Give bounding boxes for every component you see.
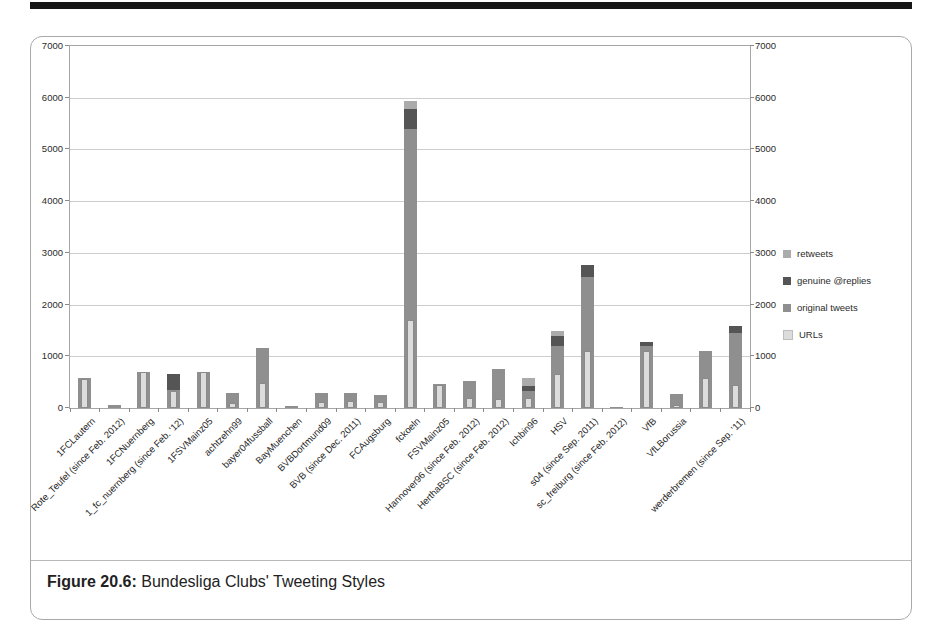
- y-axis-tick-label: 4000: [755, 195, 776, 206]
- y-axis-tick: [65, 148, 69, 149]
- category-label: Ichbin96: [508, 416, 540, 448]
- y-axis-tick-label: 0: [755, 402, 760, 413]
- y-axis-tick: [750, 304, 754, 305]
- legend-item-original-tweets: original tweets: [783, 303, 908, 313]
- y-axis-tick: [65, 355, 69, 356]
- bar-segment-genuine-replies: [522, 386, 535, 391]
- y-axis-tick: [750, 45, 754, 46]
- y-axis-tick: [750, 97, 754, 98]
- bar-overlay-urls: [377, 402, 384, 408]
- bar-overlay-urls: [229, 403, 236, 408]
- urls-swatch-icon: [783, 330, 793, 340]
- figure-box: 1FCLauternRote_Teufel (since Feb. 2012)1…: [30, 36, 912, 620]
- bar-overlay-urls: [140, 372, 147, 408]
- bar-overlay-urls: [259, 383, 266, 408]
- bar-segment-genuine-replies: [729, 326, 742, 332]
- bar-segment-original-tweets: [108, 405, 121, 408]
- chart-legend: retweets genuine @replies original tweet…: [783, 249, 908, 357]
- y-axis-tick-label: 6000: [755, 92, 776, 103]
- bar-segment-genuine-replies: [167, 374, 180, 390]
- bar-overlay-urls: [200, 372, 207, 408]
- figure-caption: Figure 20.6: Bundesliga Clubs' Tweeting …: [47, 573, 385, 591]
- chart-plot-area: [69, 45, 751, 409]
- legend-item-urls: URLs: [783, 330, 908, 340]
- bar-overlay-urls: [673, 405, 680, 408]
- y-axis-tick-label: 7000: [33, 40, 63, 51]
- bar-overlay-urls: [466, 398, 473, 408]
- y-axis-tick: [750, 407, 754, 408]
- legend-label: URLs: [799, 330, 823, 340]
- legend-item-retweets: retweets: [783, 249, 908, 259]
- bar-segment-genuine-replies: [581, 265, 594, 277]
- y-axis-tick-label: 1000: [33, 350, 63, 361]
- category-label: HSV: [549, 416, 570, 437]
- y-axis-tick-label: 3000: [755, 247, 776, 258]
- genuine-replies-swatch-icon: [783, 277, 791, 285]
- bar-segment-retweets: [551, 331, 564, 336]
- bar-overlay-urls: [170, 391, 177, 408]
- bar-overlay-urls: [318, 402, 325, 408]
- y-axis-tick: [65, 304, 69, 305]
- y-axis-tick-label: 2000: [33, 299, 63, 310]
- y-axis-tick: [750, 252, 754, 253]
- legend-item-genuine-replies: genuine @replies: [783, 276, 908, 286]
- retweets-swatch-icon: [783, 250, 791, 258]
- y-axis-tick-label: 4000: [33, 195, 63, 206]
- bar-overlay-urls: [525, 398, 532, 408]
- y-axis-tick: [65, 252, 69, 253]
- figure-caption-title: Bundesliga Clubs' Tweeting Styles: [137, 573, 385, 590]
- page-header-rule: [30, 2, 912, 9]
- bar-overlay-urls: [495, 399, 502, 408]
- bar-overlay-urls: [436, 385, 443, 408]
- bar-overlay-urls: [554, 374, 561, 408]
- y-axis-tick-label: 6000: [33, 92, 63, 103]
- y-axis-tick: [750, 200, 754, 201]
- caption-divider: Figure 20.6: Bundesliga Clubs' Tweeting …: [31, 560, 911, 561]
- bar-segment-genuine-replies: [551, 336, 564, 346]
- bar-overlay-urls: [81, 379, 88, 408]
- bar-segment-original-tweets: [610, 407, 623, 408]
- legend-label: retweets: [797, 249, 833, 259]
- y-axis-tick-label: 7000: [755, 40, 776, 51]
- bar-overlay-urls: [407, 320, 414, 408]
- category-label: VfB: [641, 416, 659, 434]
- bar-segment-original-tweets: [285, 406, 298, 408]
- bar-segment-genuine-replies: [404, 109, 417, 129]
- legend-label: genuine @replies: [797, 276, 871, 286]
- figure-caption-number: Figure 20.6:: [47, 573, 137, 590]
- bar-overlay-urls: [732, 385, 739, 408]
- bar-overlay-urls: [702, 378, 709, 409]
- legend-label: original tweets: [797, 303, 858, 313]
- y-axis-tick-label: 3000: [33, 247, 63, 258]
- y-axis-tick: [65, 200, 69, 201]
- y-axis-tick-label: 5000: [755, 143, 776, 154]
- bar-overlay-urls: [347, 401, 354, 408]
- bar-segment-retweets: [404, 101, 417, 109]
- y-axis-tick: [750, 355, 754, 356]
- y-axis-tick: [65, 45, 69, 46]
- gridline: [70, 98, 750, 99]
- bar-overlay-urls: [643, 351, 650, 408]
- x-axis-tick: [750, 408, 751, 412]
- x-axis-labels: 1FCLauternRote_Teufel (since Feb. 2012)1…: [69, 412, 749, 557]
- y-axis-tick: [750, 148, 754, 149]
- bar-overlay-urls: [584, 351, 591, 408]
- original-tweets-swatch-icon: [783, 304, 791, 312]
- y-axis-tick-label: 5000: [33, 143, 63, 154]
- y-axis-tick-label: 2000: [755, 299, 776, 310]
- y-axis-tick-label: 0: [33, 402, 63, 413]
- y-axis-tick: [65, 97, 69, 98]
- bar-segment-genuine-replies: [640, 342, 653, 347]
- bar-segment-retweets: [522, 378, 535, 386]
- y-axis-tick: [65, 407, 69, 408]
- y-axis-tick-label: 1000: [755, 350, 776, 361]
